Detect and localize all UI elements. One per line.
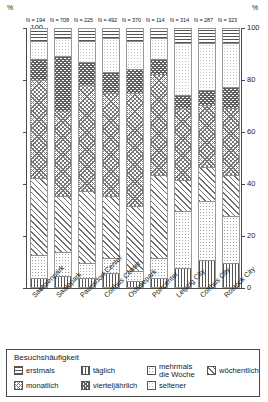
bar-segment-monatlich: [151, 75, 167, 176]
sample-size-label: N = 114: [146, 17, 165, 23]
sample-size-label: N = 194: [26, 17, 45, 23]
bar-segment-monatlich: [175, 109, 191, 181]
bar-segment-seltener: [223, 44, 239, 88]
bar-portcenter: [150, 28, 168, 288]
axis-tick-label: 20: [247, 232, 268, 240]
sample-size-label: N = 225: [74, 17, 93, 23]
bar-segment-woechentlich: [199, 168, 215, 202]
legend-swatch-erstmals: [14, 366, 23, 375]
bar-segment-erstmals: [103, 29, 119, 39]
bar-segment-seltener: [55, 39, 71, 57]
bar-segment-erstmals: [127, 29, 143, 42]
legend-label-mehrmals: mehrmalsdie Woche: [159, 363, 195, 378]
bar-cottbus-center: [102, 28, 120, 288]
axis-tick-label: 100: [247, 24, 268, 32]
bars-area: N = 194N = 708N = 225N = 492N = 370N = 1…: [26, 28, 242, 288]
bar-segment-woechentlich: [31, 179, 47, 256]
legend-item-woechentlich: wöchentlich: [207, 366, 259, 375]
legend-label-monatlich: monatlich: [26, 382, 59, 390]
axis-tick: [242, 80, 245, 81]
bar-ostseepark: [126, 28, 144, 288]
sample-size-label: N = 708: [50, 17, 69, 23]
stacked-bar-chart: % % 002020404060608080100100 N = 194N = …: [0, 0, 268, 348]
category-labels: SachsenparkSaaleparkPaunsdorf CenterCott…: [0, 289, 268, 347]
bar-segment-erstmals: [175, 29, 191, 44]
bar-segment-seltener: [103, 39, 119, 73]
legend-item-seltener: seltener: [147, 381, 186, 390]
bar-segment-vierteljaehrlich: [175, 96, 191, 109]
bar-segment-vierteljaehrlich: [151, 60, 167, 75]
sample-size-label: N = 492: [98, 17, 117, 23]
bar-segment-woechentlich: [223, 176, 239, 217]
bar-segment-mehrmals: [175, 212, 191, 269]
bar-segment-seltener: [175, 45, 191, 97]
bar-segment-woechentlich: [175, 181, 191, 212]
sample-size-label: N = 370: [122, 17, 141, 23]
y-axis-unit-right: %: [252, 4, 258, 11]
legend-swatch-seltener: [147, 381, 156, 390]
axis-tick-label: 60: [247, 128, 268, 136]
bar-segment-mehrmals: [31, 256, 47, 279]
axis-tick-label: 80: [247, 76, 268, 84]
bar-segment-monatlich: [79, 86, 95, 192]
bar-segment-monatlich: [127, 94, 143, 208]
legend-label-seltener: seltener: [159, 382, 186, 390]
legend-label-woechentlich: wöchentlich: [219, 367, 259, 375]
y-axis-unit-left: %: [7, 4, 13, 11]
bar-segment-vierteljaehrlich: [127, 70, 143, 93]
sample-size-label: N = 323: [218, 17, 237, 23]
bar-segment-monatlich: [31, 81, 47, 179]
axis-tick: [242, 28, 245, 29]
bar-segment-seltener: [127, 42, 143, 70]
bar-segment-erstmals: [223, 29, 239, 44]
bar-segment-monatlich: [223, 109, 239, 176]
bar-saalepark: [54, 28, 72, 288]
bar-segment-vierteljaehrlich: [103, 73, 119, 94]
bar-rostock-city: [222, 28, 240, 288]
bar-segment-woechentlich: [79, 192, 95, 264]
bar-segment-erstmals: [79, 29, 95, 42]
bar-segment-vierteljaehrlich: [31, 60, 47, 81]
bar-paunsdorf-center: [78, 28, 96, 288]
axis-tick: [242, 236, 245, 237]
sample-size-label: N = 314: [170, 17, 189, 23]
legend-label-taeglich: täglich: [93, 367, 115, 375]
bar-sachsenpark: [30, 28, 48, 288]
bar-segment-monatlich: [199, 106, 215, 168]
bar-segment-woechentlich: [103, 197, 119, 259]
bar-segment-vierteljaehrlich: [55, 57, 71, 111]
bar-segment-woechentlich: [55, 197, 71, 254]
bar-segment-mehrmals: [223, 217, 239, 263]
legend-item-taeglich: täglich: [81, 366, 115, 375]
bar-segment-seltener: [79, 42, 95, 63]
bar-leipzig-city: [174, 28, 192, 288]
bar-segment-vierteljaehrlich: [79, 63, 95, 86]
sample-size-label: N = 287: [194, 17, 213, 23]
legend-item-vierteljaehrlich: vierteljährlich: [81, 381, 137, 390]
axis-tick: [242, 132, 245, 133]
bar-segment-monatlich: [55, 112, 71, 197]
legend-swatch-taeglich: [81, 366, 90, 375]
bar-segment-vierteljaehrlich: [223, 88, 239, 109]
legend: Besuchshäufigkeit erstmalstäglichmehrmal…: [6, 349, 260, 397]
bar-cottbus-city: [198, 28, 216, 288]
axis-tick: [242, 184, 245, 185]
bar-segment-seltener: [31, 42, 47, 60]
legend-item-monatlich: monatlich: [14, 381, 59, 390]
bar-segment-seltener: [199, 44, 215, 90]
bar-segment-mehrmals: [199, 202, 215, 261]
legend-swatch-mehrmals: [147, 366, 156, 375]
bar-segment-seltener: [151, 39, 167, 60]
legend-item-mehrmals: mehrmalsdie Woche: [147, 363, 195, 378]
axis-tick-label: 40: [247, 180, 268, 188]
legend-swatch-monatlich: [14, 381, 23, 390]
legend-swatch-vierteljaehrlich: [81, 381, 90, 390]
bar-segment-erstmals: [31, 29, 47, 42]
legend-title: Besuchshäufigkeit: [14, 353, 79, 362]
bar-segment-monatlich: [103, 94, 119, 197]
legend-label-vierteljaehrlich: vierteljährlich: [93, 382, 137, 390]
bar-segment-erstmals: [55, 29, 71, 39]
bar-segment-vierteljaehrlich: [199, 91, 215, 106]
bar-segment-erstmals: [199, 29, 215, 44]
legend-item-erstmals: erstmals: [14, 366, 55, 375]
